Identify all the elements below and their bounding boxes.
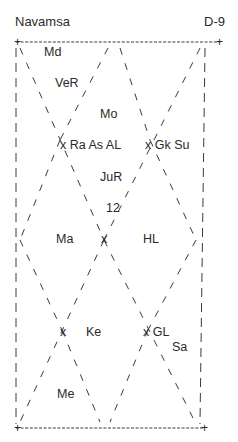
svg-text:+: + [216,35,223,49]
house-label-gk-su: x Gk Su [145,138,189,152]
navamsa-chart-grid: + + + + [0,0,238,442]
svg-text:+: + [14,421,21,435]
house-label-jur: JuR [100,170,122,184]
house-label-mo: Mo [100,107,117,121]
house-label-me: Me [57,387,74,401]
house-label-ver: VeR [55,76,79,90]
lower-left-cross-mark: x [60,325,66,339]
house-label-ra-as-al: x Ra As AL [60,138,121,152]
house-label-ma: Ma [56,232,73,246]
house-label-md: Md [44,45,61,59]
center-cross-mark: x [101,232,107,246]
svg-text:+: + [14,35,21,49]
svg-text:+: + [201,421,208,435]
house-number-12: 12 [106,201,120,215]
house-label-gl: x GL [143,325,169,339]
house-label-sa: Sa [172,340,187,354]
house-label-ke: Ke [86,325,101,339]
house-label-hl: HL [143,232,159,246]
